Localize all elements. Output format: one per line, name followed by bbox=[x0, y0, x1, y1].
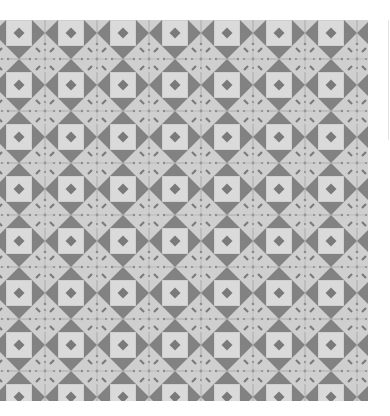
edge-divider bbox=[388, 20, 389, 140]
pattern-fill bbox=[0, 20, 368, 401]
tile-pattern-swatch bbox=[0, 20, 368, 401]
geometric-pattern bbox=[0, 20, 368, 401]
